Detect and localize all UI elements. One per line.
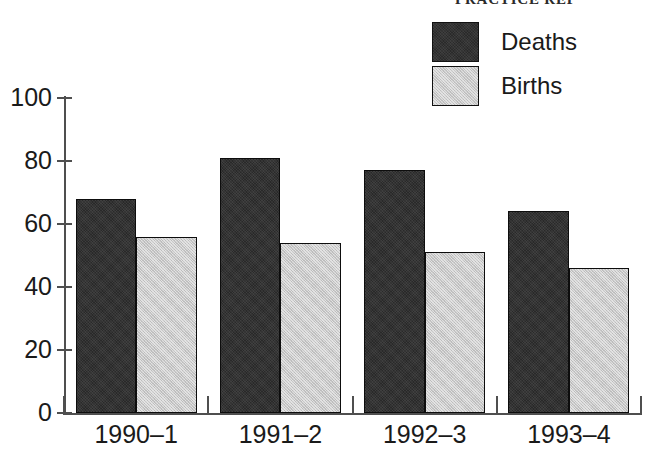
x-axis-label-1993–4: 1993–4 bbox=[497, 422, 641, 447]
bar-deaths-1991–2 bbox=[220, 158, 281, 413]
x-axis-label-1990–1: 1990–1 bbox=[64, 422, 208, 447]
y-tick-label-40: 40 bbox=[0, 274, 52, 300]
y-axis-line bbox=[64, 96, 66, 415]
y-tick-label-20: 20 bbox=[0, 337, 52, 363]
y-tick-label-text: 60 bbox=[0, 211, 52, 236]
bar-deaths-1993–4 bbox=[508, 211, 569, 413]
y-tick-40 bbox=[57, 286, 72, 288]
bar-births-1993–4 bbox=[569, 268, 630, 413]
bar-chart: 020406080100 1990–11991–21992–31993–4 bbox=[0, 0, 658, 462]
y-tick-label-80: 80 bbox=[0, 148, 52, 174]
x-group-tick-0 bbox=[63, 396, 65, 415]
bar-deaths-1992–3 bbox=[364, 170, 425, 413]
y-tick-label-text: 100 bbox=[0, 85, 52, 110]
y-tick-label-text: 20 bbox=[0, 337, 52, 362]
x-group-tick-1 bbox=[207, 396, 209, 415]
y-tick-label-60: 60 bbox=[0, 211, 52, 237]
y-tick-60 bbox=[57, 223, 72, 225]
bar-births-1991–2 bbox=[280, 243, 341, 413]
x-group-tick-3 bbox=[496, 396, 498, 415]
x-group-tick-4 bbox=[640, 396, 642, 415]
x-group-tick-2 bbox=[352, 396, 354, 415]
y-tick-20 bbox=[57, 349, 72, 351]
y-tick-label-text: 40 bbox=[0, 274, 52, 299]
bar-deaths-1990–1 bbox=[76, 199, 137, 413]
y-tick-label-100: 100 bbox=[0, 85, 52, 111]
y-tick-label-text: 0 bbox=[0, 400, 52, 425]
bar-births-1990–1 bbox=[136, 237, 197, 413]
y-tick-80 bbox=[57, 160, 72, 162]
y-tick-label-0: 0 bbox=[0, 400, 52, 426]
x-axis-label-1992–3: 1992–3 bbox=[353, 422, 497, 447]
y-tick-100 bbox=[57, 97, 72, 99]
x-axis-label-1991–2: 1991–2 bbox=[208, 422, 352, 447]
bar-births-1992–3 bbox=[425, 252, 486, 413]
y-tick-label-text: 80 bbox=[0, 148, 52, 173]
